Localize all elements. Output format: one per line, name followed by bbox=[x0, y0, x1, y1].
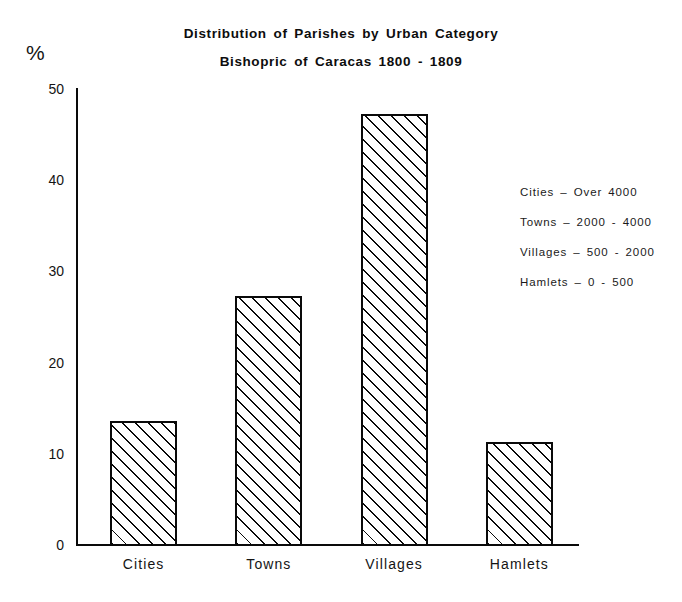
legend-row-villages: Villages – 500 - 2000 bbox=[520, 246, 680, 258]
bars-layer: CitiesTownsVillagesHamlets bbox=[0, 0, 682, 602]
bar-chart-figure: Distribution of Parishes by Urban Catego… bbox=[0, 0, 682, 602]
bar-villages bbox=[361, 114, 428, 546]
bar-cities bbox=[110, 421, 177, 546]
bar-towns bbox=[235, 296, 302, 546]
x-tick-label-hamlets: Hamlets bbox=[490, 556, 549, 572]
x-tick-label-towns: Towns bbox=[246, 556, 291, 572]
legend-row-hamlets: Hamlets – 0 - 500 bbox=[520, 276, 680, 288]
legend: Cities – Over 4000 Towns – 2000 - 4000 V… bbox=[520, 186, 680, 288]
legend-row-towns: Towns – 2000 - 4000 bbox=[520, 216, 680, 228]
x-tick-label-villages: Villages bbox=[365, 556, 423, 572]
legend-row-cities: Cities – Over 4000 bbox=[520, 186, 680, 198]
bar-hamlets bbox=[486, 442, 553, 546]
x-tick-label-cities: Cities bbox=[123, 556, 165, 572]
